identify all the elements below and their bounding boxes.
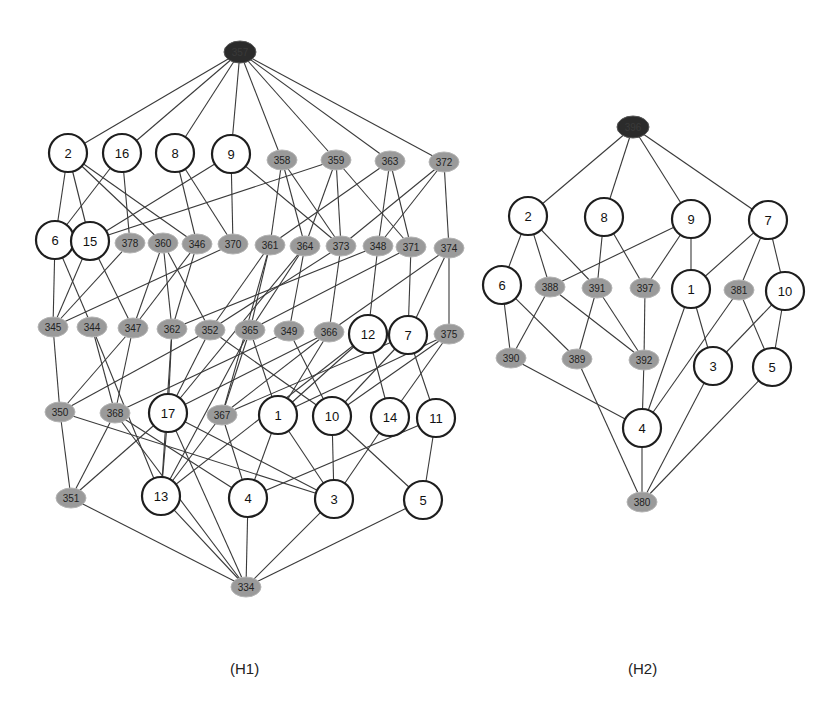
node-label: 8 [171, 146, 178, 161]
node-h2-392: 392 [629, 350, 659, 370]
node-label: 381 [731, 285, 748, 296]
node-label: 12 [361, 327, 375, 342]
node-h2-5: 5 [753, 348, 791, 386]
node-h1-6: 6 [36, 221, 74, 259]
edge-h1-358-364 [282, 160, 305, 246]
node-label: 378 [122, 238, 139, 249]
node-h1-344: 344 [77, 317, 107, 337]
node-h1-350: 350 [45, 402, 75, 422]
node-label: 3 [709, 359, 716, 374]
edge-h1-361-365 [250, 245, 270, 330]
node-h1-371: 371 [396, 237, 426, 257]
edge-h1-345-350 [53, 327, 60, 412]
node-h1-12: 12 [349, 315, 387, 353]
edge-h1-350-351 [60, 412, 71, 498]
node-h1-348: 348 [363, 236, 393, 256]
node-label: 389 [569, 354, 586, 365]
node-h1-351: 351 [56, 488, 86, 508]
node-h2-390: 390 [496, 348, 526, 368]
node-h1-2: 2 [49, 134, 87, 172]
node-h2-1: 1 [672, 270, 710, 308]
node-h1-3: 3 [315, 480, 353, 518]
node-h1-368: 368 [100, 403, 130, 423]
node-label: 370 [225, 239, 242, 250]
node-label: 347 [125, 323, 142, 334]
node-label: 374 [441, 243, 458, 254]
node-h1-347: 347 [118, 318, 148, 338]
node-label: 4 [638, 421, 645, 436]
node-label: 6 [51, 233, 58, 248]
edge-h1-360-347 [133, 243, 163, 328]
node-label: 5 [419, 493, 426, 508]
node-label: 5 [768, 360, 775, 375]
node-label: 372 [436, 157, 453, 168]
node-h2-397: 397 [630, 278, 660, 298]
node-label: 3 [330, 492, 337, 507]
node-h1-334: 334 [231, 577, 261, 597]
node-h1-345: 345 [38, 317, 68, 337]
node-h2-7: 7 [749, 201, 787, 239]
node-label: 13 [154, 489, 168, 504]
edge-h1-357-2 [68, 52, 240, 153]
edge-h1-373-366 [329, 246, 341, 332]
node-h1-374: 374 [434, 238, 464, 258]
node-h1-378: 378 [115, 233, 145, 253]
node-h2-380: 380 [627, 492, 657, 512]
node-label: 358 [274, 155, 291, 166]
edge-h1-346-362 [172, 244, 197, 329]
node-h2-3: 3 [694, 347, 732, 385]
node-h1-372: 372 [429, 152, 459, 172]
node-h1-8: 8 [156, 134, 194, 172]
node-label: 366 [321, 327, 338, 338]
edge-h1-358-373 [282, 160, 341, 246]
caption-h2: (H2) [628, 660, 657, 677]
node-label: 388 [542, 282, 559, 293]
node-h1-375: 375 [434, 324, 464, 344]
edge-h1-357-372 [240, 52, 444, 162]
node-h1-10: 10 [313, 397, 351, 435]
node-h1-16: 16 [103, 134, 141, 172]
node-label: 380 [634, 497, 651, 508]
edge-h2-5-380 [642, 367, 772, 502]
nodes-layer: 3572168935835936337261537836034637036136… [36, 41, 804, 597]
node-h2-396: 396 [617, 116, 649, 138]
edge-h1-357-359 [240, 52, 336, 160]
node-label: 361 [262, 240, 279, 251]
edge-h1-344-368 [92, 327, 115, 413]
node-h1-4: 4 [229, 479, 267, 517]
node-label: 371 [403, 242, 420, 253]
node-h1-367: 367 [207, 405, 237, 425]
node-label: 364 [297, 241, 314, 252]
node-h2-6: 6 [483, 266, 521, 304]
node-label: 9 [227, 147, 234, 162]
node-label: 334 [238, 582, 255, 593]
edge-h1-347-368 [115, 328, 133, 413]
node-label: 346 [189, 239, 206, 250]
node-label: 351 [63, 493, 80, 504]
node-label: 350 [52, 407, 69, 418]
node-h2-4: 4 [623, 409, 661, 447]
node-label: 10 [778, 284, 792, 299]
node-label: 349 [281, 326, 298, 337]
node-label: 348 [370, 241, 387, 252]
edge-h1-361-352 [210, 245, 270, 330]
node-h1-357: 357 [224, 41, 256, 63]
node-label: 344 [84, 322, 101, 333]
node-label: 368 [107, 408, 124, 419]
node-h2-9: 9 [672, 200, 710, 238]
node-label: 8 [600, 210, 607, 225]
node-label: 1 [274, 408, 281, 423]
node-label: 10 [325, 409, 339, 424]
node-label: 365 [242, 325, 259, 336]
node-label: 357 [232, 47, 249, 58]
edge-h2-391-389 [577, 288, 597, 359]
edge-h1-372-373 [341, 162, 444, 246]
edge-h2-391-392 [597, 288, 644, 360]
node-label: 375 [441, 329, 458, 340]
node-h1-363: 363 [375, 151, 405, 171]
node-h2-2: 2 [509, 197, 547, 235]
node-h1-373: 373 [326, 236, 356, 256]
node-h1-360: 360 [148, 233, 178, 253]
node-h1-362: 362 [157, 319, 187, 339]
node-h1-9: 9 [212, 135, 250, 173]
